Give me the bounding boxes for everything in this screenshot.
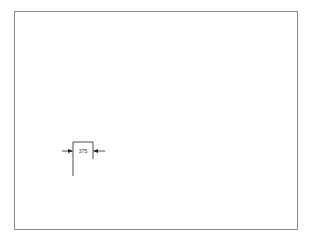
right-arrow-icon (93, 149, 105, 153)
dimension-value: 375 (79, 148, 88, 154)
drawing-canvas: 375 (0, 0, 316, 238)
left-arrow-icon (62, 149, 73, 153)
dimension-drawing: 375 (0, 0, 316, 238)
